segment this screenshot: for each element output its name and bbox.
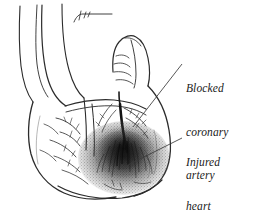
label-injured-muscle-line-2: heart xyxy=(186,199,220,214)
atrial-appendage-lobe-2 xyxy=(114,63,130,67)
coronary-branch-lv-7 xyxy=(40,150,56,161)
atrial-appendage-lobe-1 xyxy=(116,55,129,58)
coronary-branch-lv-2 xyxy=(60,132,80,146)
coronary-sulcus xyxy=(65,100,146,109)
injured-heart-muscle-shading xyxy=(78,121,170,195)
label-blocked-artery-line-1: Blocked xyxy=(186,81,229,96)
leader-line-blocked-artery xyxy=(133,64,182,127)
vessel-stub-branch xyxy=(79,11,90,20)
atrial-appendage-ridge xyxy=(131,40,136,88)
aorta-outline xyxy=(19,6,33,102)
coronary-twig-1 xyxy=(64,117,79,129)
blocked-artery-upper xyxy=(119,92,120,104)
ventricle-surface-line-1 xyxy=(36,116,40,164)
coronary-branch-lv-4 xyxy=(54,156,80,172)
heart-attack-diagram: Blocked coronary artery Injured heart mu… xyxy=(0,0,263,217)
coronary-branch-rv-3 xyxy=(98,104,112,126)
atrial-appendage-lobe-4 xyxy=(116,80,133,84)
coronary-branch-lv-1 xyxy=(56,118,80,134)
label-injured-muscle-line-1: Injured xyxy=(186,155,220,170)
atrial-appendage-lobe-3 xyxy=(114,72,131,76)
coronary-branch-lv-6 xyxy=(44,124,58,134)
atrial-appendage-outline xyxy=(113,36,150,86)
pulmonary-trunk-right-edge xyxy=(62,4,84,98)
label-injured-heart-muscle: Injured heart muscle xyxy=(186,126,220,217)
coronary-branch-lv-3 xyxy=(50,140,76,157)
